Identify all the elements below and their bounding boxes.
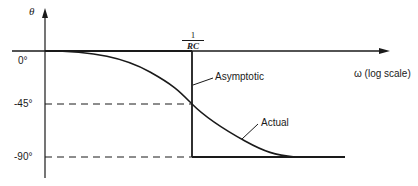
actual-leader <box>242 124 258 139</box>
x-axis-arrow-icon <box>379 48 390 54</box>
corner-frequency-label: 1 RC <box>182 30 204 51</box>
tick-label-minus-90: -90° <box>14 151 32 162</box>
tick-label-0: 0° <box>18 55 28 66</box>
asymptotic-annotation: Asymptotic <box>215 71 264 82</box>
phase-plot <box>0 0 418 186</box>
tick-label-minus-45: -45° <box>14 98 32 109</box>
y-axis-label: θ <box>29 5 34 17</box>
corner-frequency-denominator: RC <box>182 41 204 51</box>
asymptotic-leader <box>193 78 213 85</box>
x-axis-label: ω (log scale) <box>354 68 411 79</box>
y-axis-arrow-icon <box>42 8 48 18</box>
actual-annotation: Actual <box>261 117 289 128</box>
corner-frequency-numerator: 1 <box>182 30 204 41</box>
